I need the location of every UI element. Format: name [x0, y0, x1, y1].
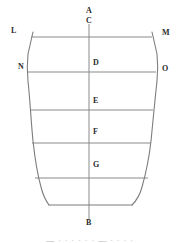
vessel-right-wall	[132, 32, 158, 205]
label-l: L	[11, 27, 17, 35]
label-d: D	[93, 59, 99, 67]
vessel-diagram-svg	[0, 0, 180, 243]
label-b: B	[86, 219, 92, 227]
label-c: C	[86, 17, 92, 25]
label-a: A	[86, 7, 92, 15]
label-e: E	[93, 97, 99, 105]
vessel-left-wall	[27, 32, 49, 205]
label-g: G	[93, 161, 99, 169]
figure-container: A C L M N O D E F G B — · · · · · · — · …	[0, 0, 180, 243]
caption-cropped: — · · · · · · — · · · ·	[0, 236, 180, 243]
label-n: N	[18, 63, 24, 71]
label-o: O	[162, 65, 168, 73]
label-f: F	[93, 128, 98, 136]
label-m: M	[162, 29, 170, 37]
